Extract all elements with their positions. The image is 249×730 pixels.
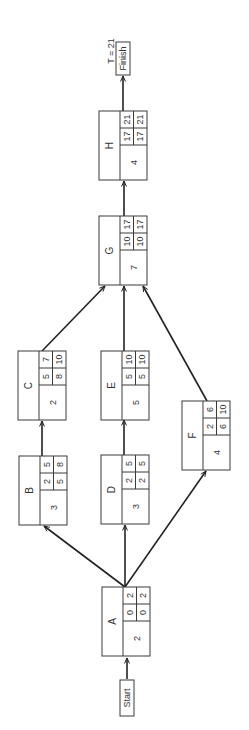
late-finish: 17 — [135, 219, 145, 229]
edge-h-to-finish — [121, 76, 126, 111]
finish-node: Finish T = 21 — [106, 38, 130, 75]
early-finish: 10 — [124, 354, 134, 364]
node-b: B25583 — [19, 456, 67, 525]
duration: 4 — [212, 450, 222, 455]
edge-g-to-h — [122, 181, 127, 216]
edge-line — [44, 526, 125, 587]
late-finish: 10 — [218, 404, 228, 414]
early-finish: 7 — [41, 357, 51, 362]
finish-label: Finish — [118, 46, 128, 70]
late-finish: 8 — [55, 462, 65, 467]
node-c: C578102 — [18, 351, 66, 420]
edge-start-to-a — [125, 658, 130, 679]
edge-a-to-b — [44, 526, 125, 587]
early-finish: 5 — [42, 462, 52, 467]
late-finish: 21 — [135, 114, 145, 124]
node-a: A02022 — [102, 587, 150, 656]
late-start: 10 — [135, 236, 145, 246]
duration: 4 — [129, 160, 139, 165]
total-time-label: T = 21 — [106, 38, 116, 64]
late-finish: 10 — [137, 354, 147, 364]
edge-f-to-g — [143, 286, 207, 401]
duration: 2 — [48, 400, 58, 405]
activity-name: F — [187, 432, 198, 438]
late-start: 5 — [137, 374, 147, 379]
late-start: 8 — [54, 374, 64, 379]
early-start: 17 — [122, 131, 132, 141]
activity-name: H — [104, 142, 115, 149]
duration: 2 — [132, 636, 142, 641]
early-start: 0 — [125, 610, 135, 615]
early-finish: 17 — [122, 219, 132, 229]
late-start: 0 — [138, 610, 148, 615]
early-start: 2 — [124, 478, 134, 483]
duration: 7 — [129, 265, 139, 270]
early-start: 2 — [205, 424, 215, 429]
late-start: 5 — [55, 479, 65, 484]
early-finish: 2 — [125, 593, 135, 598]
activity-name: A — [107, 618, 118, 625]
early-start: 10 — [122, 236, 132, 246]
cpm-network-diagram: A02022B25583C578102D25253E5105105F266104… — [0, 0, 249, 730]
node-e: E5105105 — [101, 351, 149, 420]
activity-name: G — [104, 246, 115, 254]
edge-line — [143, 286, 207, 401]
edge-e-to-g — [122, 286, 127, 351]
activity-name: D — [106, 486, 117, 493]
node-g: G101710177 — [99, 216, 147, 285]
late-finish: 10 — [54, 354, 64, 364]
edge-c-to-g — [42, 286, 105, 351]
edge-b-to-c — [40, 421, 45, 456]
edge-a-to-d — [123, 525, 128, 587]
edge-d-to-e — [122, 420, 127, 455]
late-start: 2 — [137, 478, 147, 483]
late-finish: 5 — [137, 461, 147, 466]
activity-name: B — [24, 487, 35, 494]
activity-name: C — [23, 382, 34, 389]
duration: 5 — [131, 400, 141, 405]
node-d: D25253 — [101, 455, 149, 524]
early-start: 5 — [41, 374, 51, 379]
early-finish: 6 — [205, 407, 215, 412]
edge-line — [42, 286, 105, 351]
late-start: 17 — [135, 131, 145, 141]
duration: 3 — [49, 505, 59, 510]
start-label: Start — [122, 688, 132, 708]
activity-name: E — [106, 382, 117, 389]
start-node: Start — [120, 680, 134, 716]
late-start: 6 — [218, 424, 228, 429]
node-h: H172117214 — [99, 111, 147, 180]
early-finish: 21 — [122, 114, 132, 124]
duration: 3 — [131, 504, 141, 509]
node-f: F266104 — [182, 401, 230, 470]
early-start: 5 — [124, 374, 134, 379]
late-finish: 2 — [138, 593, 148, 598]
early-finish: 5 — [124, 461, 134, 466]
early-start: 2 — [42, 479, 52, 484]
